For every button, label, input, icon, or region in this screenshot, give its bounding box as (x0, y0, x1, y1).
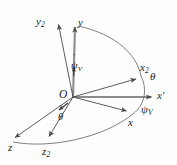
angle-label-theta-text: θ (150, 70, 155, 82)
angle-label-psi-v: ψV (141, 104, 153, 117)
axis-label-z-text: z (8, 141, 12, 153)
axis-label-x-prime: x′ (157, 90, 164, 101)
axis-label-x2-sub: 2 (145, 66, 149, 75)
rate-label-theta-dot: ˙θ (58, 112, 63, 123)
rate-label-psi-v-dot-sub: V (78, 65, 82, 73)
arc-y-to-x2 (78, 26, 141, 76)
axis-line-x (73, 97, 127, 111)
angle-label-psi-v-text: ψ (141, 103, 148, 115)
axis-line-z (15, 97, 73, 138)
axis-label-x: x (128, 117, 133, 128)
axis-label-x2: x2 (140, 62, 149, 75)
axis-label-z: z (8, 142, 12, 153)
rotation-diagram: O y y2 x′ x2 x z z2 θ ψV ˙ψV ˙θ (0, 0, 177, 165)
prime-mark: ′ (162, 89, 164, 101)
rate-label-psi-v-dot-symbol: ˙ψ (71, 61, 78, 72)
origin-label: O (59, 89, 67, 101)
axis-label-y2-sub: 2 (41, 20, 45, 29)
rate-label-theta-dot-symbol: ˙θ (58, 112, 63, 123)
axis-label-z2-sub: 2 (46, 150, 50, 159)
axis-label-y2: y2 (36, 16, 45, 29)
axis-label-z2: z2 (42, 146, 50, 159)
arcs (13, 26, 145, 144)
axis-line-x2 (73, 79, 136, 97)
rate-label-psi-v-dot: ˙ψV (71, 61, 82, 73)
arc-z-to-x (13, 114, 133, 144)
diagram-canvas (0, 0, 177, 165)
axis-label-y: y (78, 17, 83, 28)
angle-label-psi-v-sub: V (148, 108, 153, 117)
angle-label-theta: θ (150, 71, 155, 82)
axis-label-y-text: y (78, 16, 83, 28)
axis-label-x-text: x (128, 116, 133, 128)
